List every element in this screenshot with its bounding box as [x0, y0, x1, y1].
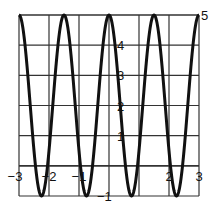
y-tick-label: 5 [201, 8, 208, 23]
sinusoid-chart: −112345 −3−2−123 [0, 0, 214, 210]
x-tick-label: −3 [8, 169, 23, 184]
x-tick-label: −2 [42, 169, 57, 184]
y-tick-label: −1 [97, 189, 112, 204]
x-tick-label: 3 [195, 169, 202, 184]
y-tick-label: 4 [117, 38, 124, 53]
x-tick-label: −1 [72, 169, 87, 184]
